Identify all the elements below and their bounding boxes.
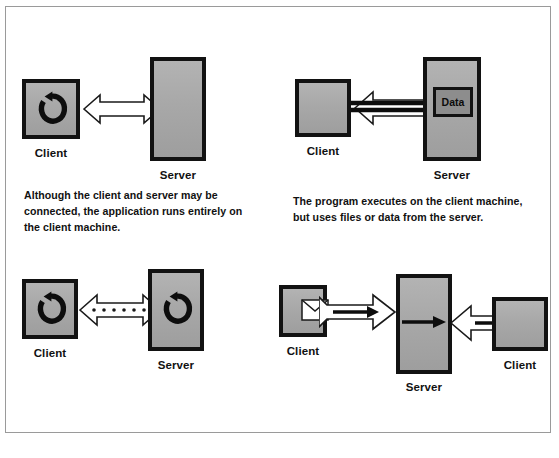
- node-client-right: [492, 297, 548, 351]
- node-client: [295, 79, 351, 137]
- figure-frame: Client Server Although the client and se…: [5, 6, 551, 433]
- node-label-server: Server: [394, 381, 454, 393]
- data-box: Data: [433, 87, 473, 117]
- node-label-server: Server: [421, 169, 483, 181]
- black-arrow-through-server: [402, 312, 448, 332]
- panel-client-server: Client Server: [6, 277, 279, 434]
- node-label-client: Client: [22, 147, 80, 159]
- cycle-icon: [35, 91, 69, 127]
- panel-file-sharing: Client Data Server The program executes …: [279, 7, 552, 239]
- node-server: [150, 57, 206, 161]
- panel-messaging: Client Server: [279, 277, 552, 434]
- node-label-client-right: Client: [490, 359, 550, 371]
- node-label-client: Client: [293, 145, 353, 157]
- node-client: [22, 79, 80, 139]
- node-label-client: Client: [20, 347, 80, 359]
- node-server: [396, 274, 452, 374]
- node-face: [295, 79, 351, 137]
- node-face: [150, 57, 206, 161]
- cycle-icon: [34, 291, 68, 327]
- node-face: [492, 297, 548, 351]
- panel-standalone: Client Server Although the client and se…: [6, 7, 279, 239]
- cycle-icon: [160, 291, 194, 327]
- node-server: [148, 269, 204, 351]
- panel-caption: Although the client and server may be co…: [24, 187, 260, 235]
- node-client: [22, 279, 78, 339]
- node-label-client-left: Client: [275, 345, 331, 357]
- connector-arrow-to-server: [319, 291, 397, 333]
- node-server: Data: [423, 57, 481, 161]
- data-box-label: Data: [442, 96, 465, 108]
- panel-caption: The program executes on the client machi…: [293, 193, 537, 225]
- node-label-server: Server: [146, 359, 206, 371]
- footer-text: [6, 444, 326, 454]
- node-label-server: Server: [148, 169, 208, 181]
